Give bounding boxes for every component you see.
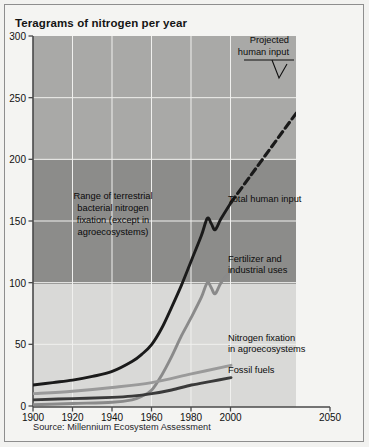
band-label-line-3: fixation (except in: [77, 215, 149, 225]
projected-label-line-1: Projected: [250, 35, 289, 45]
fertilizer-label-line-2: industrial uses: [228, 265, 288, 275]
y-tick-200: 200: [9, 154, 26, 165]
y-tick-100: 100: [9, 278, 26, 289]
chart-figure: Teragrams of nitrogen per year: [0, 0, 369, 447]
y-axis: 300 250 200 150 100 50 0: [9, 31, 33, 412]
y-tick-0: 0: [20, 401, 26, 412]
y-tick-300: 300: [9, 31, 26, 42]
agro-label-line-1: Nitrogen fixation: [228, 333, 295, 343]
x-tick-2050: 2050: [319, 412, 342, 423]
band-label-line-1: Range of terrestrial: [73, 191, 152, 201]
annotation-fossil-fuels: Fossil fuels: [228, 365, 275, 375]
y-tick-250: 250: [9, 93, 26, 104]
annotation-total-human-input: Total human input: [228, 194, 302, 204]
band-label-line-2: bacterial nitrogen: [77, 203, 148, 213]
band-label-line-4: agroecosystems): [78, 227, 149, 237]
x-tick-2000: 2000: [219, 412, 242, 423]
y-tick-50: 50: [15, 339, 27, 350]
fertilizer-label-line-1: Fertilizer and: [228, 254, 282, 264]
x-axis: 1900 1920 1940 1960 1980 2000 2050: [22, 407, 342, 423]
annotation-fertilizer: Fertilizer and industrial uses: [228, 254, 288, 275]
chart-plot: 300 250 200 150 100 50 0 1900 1920 1940 …: [0, 0, 369, 447]
agro-label-line-2: in agroecosystems: [228, 344, 306, 354]
y-tick-150: 150: [9, 216, 26, 227]
annotation-agro-fixation: Nitrogen fixation in agroecosystems: [228, 333, 306, 354]
projected-label-line-2: human input: [238, 47, 290, 57]
source-note: Source: Millennium Ecosystem Assessment: [33, 422, 211, 432]
